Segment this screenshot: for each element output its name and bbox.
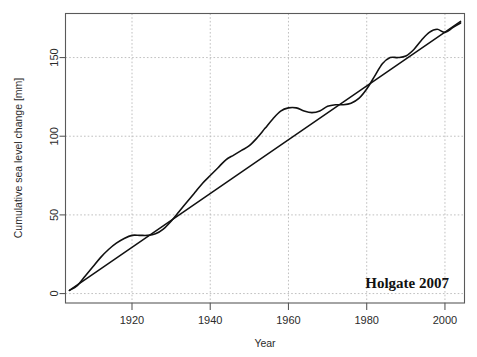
x-tick-label: 1960 xyxy=(276,314,300,326)
x-tick-label: 1940 xyxy=(198,314,222,326)
y-tick-label: 100 xyxy=(49,127,61,145)
y-tick-label: 50 xyxy=(49,209,61,221)
x-tick-label: 1920 xyxy=(120,314,144,326)
y-tick-label: 150 xyxy=(49,48,61,66)
x-axis-label: Year xyxy=(254,337,276,349)
x-tick-label: 1980 xyxy=(354,314,378,326)
chart-figure: 050100150 19201940196019802000 Cumulativ… xyxy=(0,0,477,357)
sea-level-line-chart: 050100150 19201940196019802000 Cumulativ… xyxy=(0,0,477,357)
source-annotation: Holgate 2007 xyxy=(365,275,449,291)
x-tick-label: 2000 xyxy=(433,314,457,326)
y-tick-label: 0 xyxy=(49,290,61,296)
y-axis-label: Cumulative sea level change [mm] xyxy=(12,78,24,239)
